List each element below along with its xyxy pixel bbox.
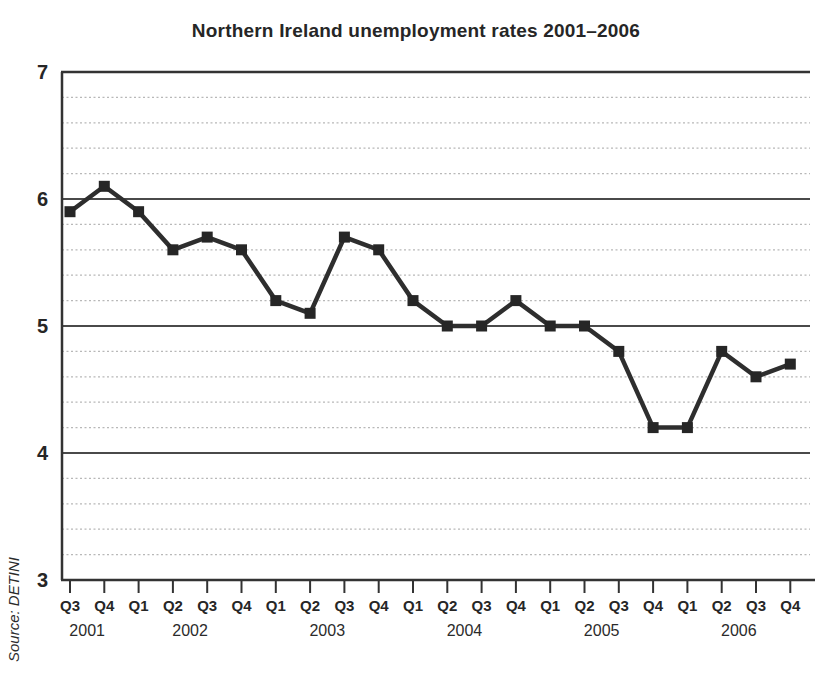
x-axis-label-quarter: Q1 (121, 598, 157, 614)
data-point (579, 321, 590, 332)
x-axis-label-quarter: Q3 (738, 598, 774, 614)
x-axis-label-year: 2006 (707, 622, 771, 640)
data-point (682, 422, 693, 433)
x-axis-label-year: 2004 (432, 622, 496, 640)
data-point (202, 232, 213, 243)
x-axis-label-quarter: Q4 (772, 598, 808, 614)
data-point (305, 308, 316, 319)
data-point (785, 359, 796, 370)
x-axis-label-quarter: Q2 (704, 598, 740, 614)
data-point (167, 244, 178, 255)
x-axis-label-quarter: Q4 (635, 598, 671, 614)
x-axis-label-quarter: Q4 (224, 598, 260, 614)
data-point (751, 371, 762, 382)
data-point (476, 321, 487, 332)
x-axis-label-quarter: Q2 (292, 598, 328, 614)
plot-area (0, 0, 832, 676)
x-axis-label-year: 2003 (295, 622, 359, 640)
data-point (510, 295, 521, 306)
x-axis-label-quarter: Q1 (669, 598, 705, 614)
x-axis-label-quarter: Q4 (361, 598, 397, 614)
data-point (270, 295, 281, 306)
x-axis-label-quarter: Q1 (532, 598, 568, 614)
chart-figure: Northern Ireland unemployment rates 2001… (0, 0, 832, 676)
x-axis-label-quarter: Q3 (189, 598, 225, 614)
y-axis-label: 5 (16, 314, 48, 338)
data-point (408, 295, 419, 306)
data-point (65, 206, 76, 217)
x-axis-label-quarter: Q1 (258, 598, 294, 614)
y-axis-label: 6 (16, 187, 48, 211)
y-axis-label: 4 (16, 441, 48, 465)
x-axis-label-quarter: Q1 (395, 598, 431, 614)
x-axis-label-quarter: Q3 (326, 598, 362, 614)
y-axis-label: 7 (16, 60, 48, 84)
x-axis-label-quarter: Q3 (464, 598, 500, 614)
x-axis-label-quarter: Q4 (86, 598, 122, 614)
data-point (442, 321, 453, 332)
x-axis-label-year: 2005 (570, 622, 634, 640)
x-axis-label-quarter: Q3 (601, 598, 637, 614)
data-point (545, 321, 556, 332)
y-axis-label: 3 (16, 568, 48, 592)
data-point (236, 244, 247, 255)
data-series-line (70, 186, 790, 427)
data-point (373, 244, 384, 255)
data-point (716, 346, 727, 357)
data-point (339, 232, 350, 243)
data-point (648, 422, 659, 433)
x-axis-label-year: 2002 (158, 622, 222, 640)
x-axis-label-quarter: Q2 (155, 598, 191, 614)
x-axis-label-year: 2001 (55, 622, 119, 640)
x-axis-label-quarter: Q4 (498, 598, 534, 614)
data-point (99, 181, 110, 192)
x-axis-label-quarter: Q3 (52, 598, 88, 614)
x-axis-label-quarter: Q2 (567, 598, 603, 614)
x-axis-label-quarter: Q2 (429, 598, 465, 614)
data-point (133, 206, 144, 217)
data-point (613, 346, 624, 357)
